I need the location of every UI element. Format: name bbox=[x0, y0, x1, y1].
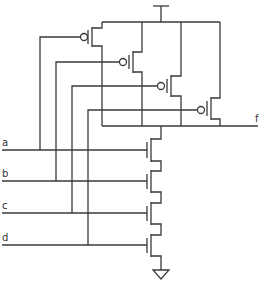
circuit-schematic: f a b c d bbox=[0, 0, 268, 291]
input-label-b: b bbox=[2, 168, 8, 179]
vdd-symbol bbox=[153, 6, 169, 22]
pmos-d bbox=[88, 22, 220, 245]
input-label-d: d bbox=[2, 232, 8, 243]
input-label-a: a bbox=[2, 137, 8, 148]
ground-symbol bbox=[153, 270, 169, 279]
nmos-stack bbox=[147, 126, 161, 270]
input-label-c: c bbox=[2, 200, 8, 211]
output-label: f bbox=[255, 113, 259, 124]
